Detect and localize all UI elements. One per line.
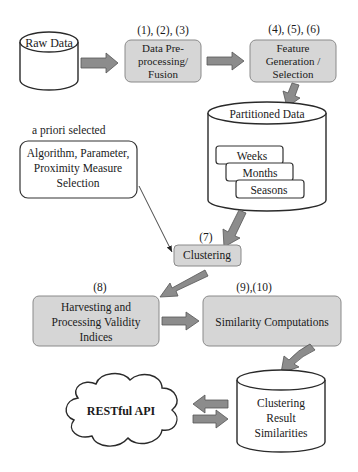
apriori-caption: a priori selected [32,124,106,137]
similarity-step: (9),(10) Similarity Computations [203,281,341,346]
step-label: (4), (5), (6) [268,23,320,36]
preprocessing-step: (1), (2), (3) Data Pre- processing/ Fusi… [125,24,201,82]
arrow-right-icon [207,52,244,70]
arrow-curved-icon [281,344,315,373]
arrow-right-icon [193,410,228,428]
box-line: Harvesting and [61,301,131,314]
harvesting-step: (8) Harvesting and Processing Validity I… [33,281,159,346]
cylinder-top-icon [237,370,325,390]
box-line: Fusion [148,68,178,80]
box-line: Generation / [266,55,322,67]
partition-label: Seasons [250,184,288,196]
arrow-down-icon [223,210,246,247]
pipeline-diagram: Raw Data (1), (2), (3) Data Pre- process… [0,0,358,472]
box-line: Selection [273,68,314,80]
box-line: Algorithm, Parameter, [27,147,130,160]
box-line: Feature [277,42,310,54]
feature-step: (4), (5), (6) Feature Generation / Selec… [250,23,336,82]
box-line: Data Pre- [142,42,184,54]
partitioned-data-label: Partitioned Data [229,108,304,120]
box-line: Similarities [254,427,308,439]
arrow-down-left-icon [160,270,208,297]
box-line: Processing Validity [52,316,141,329]
partitioned-data-store: Partitioned Data Weeks Months Seasons [208,102,326,211]
step-label: (8) [93,281,107,294]
similarity-label: Similarity Computations [215,316,329,329]
apriori-selection: a priori selected Algorithm, Parameter, … [20,124,137,198]
box-line: Proximity Measure [34,162,122,175]
clustering-label: Clustering [183,249,231,262]
connector-line [139,186,172,252]
partition-label: Weeks [237,150,268,162]
restful-api-cloud: RESTful API [66,374,177,446]
box-line: Clustering [257,397,305,410]
box-line: Indices [79,331,113,343]
raw-data-label: Raw Data [25,36,73,50]
arrow-left-icon [193,395,228,413]
result-store: Clustering Result Similarities [237,370,325,452]
arrow-right-icon [81,53,118,73]
box-line: Selection [57,177,100,189]
api-label: RESTful API [87,404,156,418]
box-line: Result [266,412,296,424]
arrow-right-icon [162,312,199,330]
box-line: processing/ [138,55,189,67]
step-label: (1), (2), (3) [137,24,189,37]
step-label: (7) [199,231,213,244]
raw-data-store: Raw Data [20,32,78,90]
partition-label: Months [242,167,278,179]
step-label: (9),(10) [236,281,272,294]
